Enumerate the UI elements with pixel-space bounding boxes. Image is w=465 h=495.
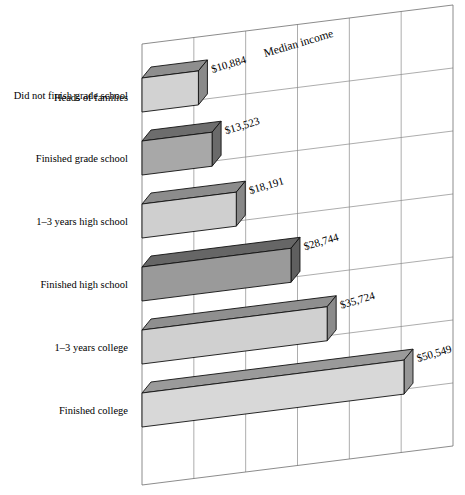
bar-front-face bbox=[142, 71, 198, 112]
bar-group bbox=[142, 121, 221, 175]
category-label: 1–3 years college bbox=[55, 342, 129, 353]
median-income-3d-bar-chart: $10,884$13,523$18,191$28,744$35,724$50,5… bbox=[0, 0, 465, 495]
category-label: Finished high school bbox=[40, 279, 128, 290]
category-label: Finished college bbox=[59, 405, 128, 416]
group-header-label: Heads of families bbox=[54, 92, 128, 103]
category-labels: Did not finish grade schoolFinished grad… bbox=[14, 90, 129, 416]
category-label: Finished grade school bbox=[36, 153, 128, 164]
chart-svg: $10,884$13,523$18,191$28,744$35,724$50,5… bbox=[0, 0, 465, 495]
category-label: 1–3 years high school bbox=[36, 216, 128, 227]
bar-group bbox=[142, 60, 207, 112]
